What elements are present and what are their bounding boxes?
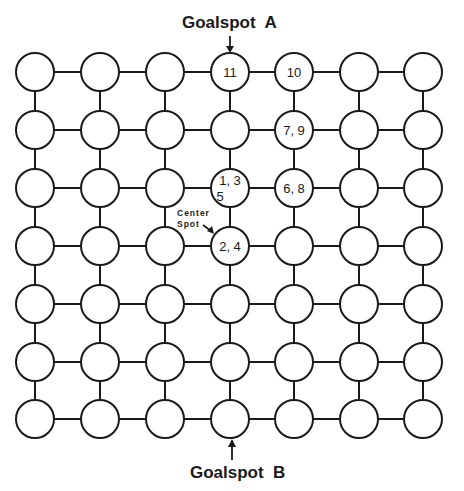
grid-node-r5-c4 <box>211 285 249 323</box>
goalspot-a-arrowhead-icon <box>226 46 234 53</box>
grid-node-r2-c4 <box>211 111 249 149</box>
grid-node-r6-c5 <box>275 343 313 381</box>
grid-node-r1-c3 <box>146 53 184 91</box>
grid-node-r7-c2 <box>81 400 119 438</box>
node-label: 11 <box>223 65 237 80</box>
grid-node-r2-c7 <box>404 111 442 149</box>
goalspot-a-label: Goalspot A <box>182 13 277 32</box>
grid-node-r5-c6 <box>340 285 378 323</box>
grid-node-r3-c2 <box>81 169 119 207</box>
grid-node-r5-c1 <box>16 285 54 323</box>
grid-node-r4-c2 <box>81 227 119 265</box>
node-label: 1, 3 <box>219 173 241 188</box>
grid-node-r6-c7 <box>404 343 442 381</box>
grid-node-r3-c7 <box>404 169 442 207</box>
grid-node-r5-c5 <box>275 285 313 323</box>
grid-node-r6-c1 <box>16 343 54 381</box>
center-spot-label-line2: Spot <box>177 219 200 229</box>
node-label: 7, 9 <box>283 123 305 138</box>
grid-node-r3-c3 <box>146 169 184 207</box>
grid-node-r4-c7 <box>404 227 442 265</box>
grid-node-r7-c5 <box>275 400 313 438</box>
goalspot-b-label: Goalspot B <box>190 463 285 482</box>
grid-node-r6-c2 <box>81 343 119 381</box>
node-label: 2, 4 <box>219 239 241 254</box>
grid-node-r4-c1 <box>16 227 54 265</box>
center-spot-annotation: Center Spot <box>177 208 214 234</box>
grid-node-r5-c3 <box>146 285 184 323</box>
grid-node-r2-c3 <box>146 111 184 149</box>
grid-node-r7-c4 <box>211 400 249 438</box>
center-spot-label-line1: Center <box>177 208 210 218</box>
grid-node-r7-c1 <box>16 400 54 438</box>
grid-node-r5-c2 <box>81 285 119 323</box>
goalspot-b-annotation: Goalspot B <box>190 439 285 482</box>
center-spot-arrowhead-icon <box>207 226 214 234</box>
grid-node-r5-c7 <box>404 285 442 323</box>
grid-node-r7-c3 <box>146 400 184 438</box>
node-label: 6, 8 <box>283 181 305 196</box>
grid-node-r6-c6 <box>340 343 378 381</box>
node-label: 5 <box>216 189 223 204</box>
grid-node-r6-c4 <box>211 343 249 381</box>
grid-node-r3-c6 <box>340 169 378 207</box>
grid-node-r3-c1 <box>16 169 54 207</box>
grid-node-r4-c6 <box>340 227 378 265</box>
grid-node-r4-c3 <box>146 227 184 265</box>
grid-node-r7-c6 <box>340 400 378 438</box>
grid-node-r6-c3 <box>146 343 184 381</box>
grid-node-r1-c1 <box>16 53 54 91</box>
grid-diagram: 11107, 91, 356, 82, 4 Goalspot A Goalspo… <box>0 0 464 491</box>
grid-node-r1-c7 <box>404 53 442 91</box>
grid-node-r1-c6 <box>340 53 378 91</box>
grid-node-r2-c6 <box>340 111 378 149</box>
grid-node-r7-c7 <box>404 400 442 438</box>
grid-node-r2-c1 <box>16 111 54 149</box>
grid-node-r1-c2 <box>81 53 119 91</box>
goalspot-a-annotation: Goalspot A <box>182 13 277 53</box>
grid-node-r2-c2 <box>81 111 119 149</box>
goalspot-b-arrowhead-icon <box>228 439 236 447</box>
grid-node-r4-c5 <box>275 227 313 265</box>
node-label: 10 <box>287 65 301 80</box>
